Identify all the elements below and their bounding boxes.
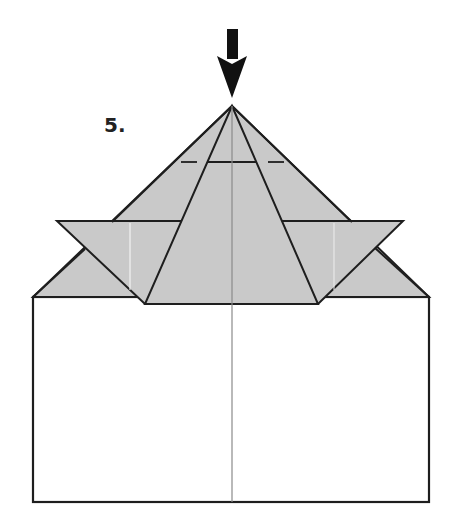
paper-body-rectangle [33, 297, 429, 502]
step-number-label: 5. [104, 113, 126, 137]
diagram-canvas [0, 0, 452, 526]
push-down-arrow-icon [217, 29, 247, 98]
